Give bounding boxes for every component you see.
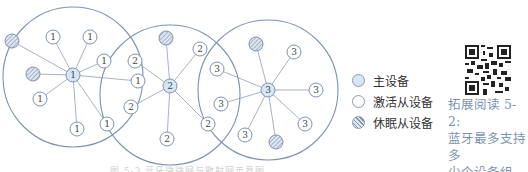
active-node: 2 [201, 117, 215, 131]
svg-text:1: 1 [74, 124, 80, 134]
svg-text:2: 2 [197, 44, 203, 54]
svg-text:3: 3 [313, 85, 319, 95]
svg-text:1: 1 [50, 32, 56, 42]
extended-reading-link[interactable]: 拓展阅读 5-2: 蓝牙最多支持多 少个设备组网? [448, 96, 528, 172]
link-line [245, 90, 268, 135]
qr-code-icon[interactable] [465, 45, 511, 95]
svg-text:1: 1 [101, 56, 107, 66]
link-line [268, 90, 276, 142]
active-node: 1 [83, 30, 97, 44]
sleep-node [159, 31, 173, 45]
active-node: 2 [128, 54, 142, 68]
active-node: 3 [298, 117, 312, 131]
svg-text:3: 3 [265, 85, 271, 95]
extended-reading-question-1: 蓝牙最多支持多 [448, 130, 528, 164]
active-node: 3 [287, 45, 301, 59]
svg-text:1: 1 [87, 32, 93, 42]
sleep-node [26, 67, 40, 81]
figure-caption: 图 5-3 蓝牙微微网与散射网示意图 [110, 164, 265, 172]
active-node: 3 [214, 97, 228, 111]
active-node: 1 [97, 54, 111, 68]
link-line [268, 90, 305, 124]
svg-text:3: 3 [302, 119, 308, 129]
active-slave-icon [352, 95, 365, 108]
svg-text:1: 1 [37, 94, 43, 104]
active-node: 1 [100, 117, 114, 131]
active-node: 1 [33, 92, 47, 106]
extended-reading-title: 拓展阅读 5-2: [448, 96, 528, 130]
sleep-node [249, 37, 263, 51]
svg-text:3: 3 [242, 130, 248, 140]
master-node: 2 [163, 79, 177, 93]
link-line [73, 75, 77, 129]
sleep-slave-icon [352, 116, 365, 129]
svg-text:1: 1 [70, 70, 76, 80]
link-line [170, 86, 208, 124]
link-line [73, 75, 107, 124]
active-node: 1 [70, 122, 84, 136]
svg-text:3: 3 [291, 47, 297, 57]
legend-item-sleep: 休眠从设备 [352, 112, 433, 133]
legend-item-active: 激活从设备 [352, 91, 433, 112]
svg-text:2: 2 [128, 102, 134, 112]
extended-reading-question-2: 少个设备组网? [448, 164, 528, 172]
active-node: 2 [193, 42, 207, 56]
active-node: 3 [210, 62, 224, 76]
legend-item-master: 主设备 [352, 70, 433, 91]
svg-text:2: 2 [205, 119, 211, 129]
svg-text:2: 2 [164, 134, 170, 144]
link-line [217, 69, 268, 90]
sleep-node [5, 34, 19, 48]
active-node: 3 [309, 83, 323, 97]
active-node: 2 [124, 100, 138, 114]
legend: 主设备 激活从设备 休眠从设备 [352, 70, 433, 133]
link-line [167, 86, 170, 139]
link-line [73, 75, 138, 81]
master-node: 1 [66, 68, 80, 82]
svg-text:1: 1 [135, 76, 141, 86]
active-node: 1 [46, 30, 60, 44]
active-node: 1 [131, 74, 145, 88]
network-diagram: 111111112222223333333 [0, 0, 350, 172]
master-node: 3 [261, 83, 275, 97]
svg-text:2: 2 [167, 81, 173, 91]
active-node: 3 [238, 128, 252, 142]
active-node: 2 [160, 132, 174, 146]
svg-text:3: 3 [218, 99, 224, 109]
sleep-node [269, 135, 283, 149]
svg-text:1: 1 [104, 119, 110, 129]
svg-text:3: 3 [214, 64, 220, 74]
svg-text:2: 2 [132, 56, 138, 66]
master-device-icon [352, 74, 365, 87]
